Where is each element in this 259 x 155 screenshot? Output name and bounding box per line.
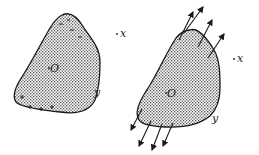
left-point-x-label: x: [120, 27, 127, 40]
diagram: O y x O y x: [0, 0, 259, 155]
right-point-x-label: x: [237, 52, 244, 65]
left-conductor: O y x: [14, 14, 127, 113]
right-center-label: O: [167, 87, 176, 100]
left-point-x-dot: [116, 33, 118, 35]
charged-bodies-figure: O y x O y x: [0, 0, 259, 155]
right-center-dot: [165, 92, 167, 94]
right-point-y-label: y: [211, 112, 219, 125]
right-point-x-dot: [233, 58, 235, 60]
left-center-label: O: [50, 62, 59, 75]
right-body-outline: [137, 30, 220, 128]
left-point-y-label: y: [93, 86, 101, 99]
left-center-dot: [48, 67, 50, 69]
right-conductor: O y x: [131, 7, 244, 150]
